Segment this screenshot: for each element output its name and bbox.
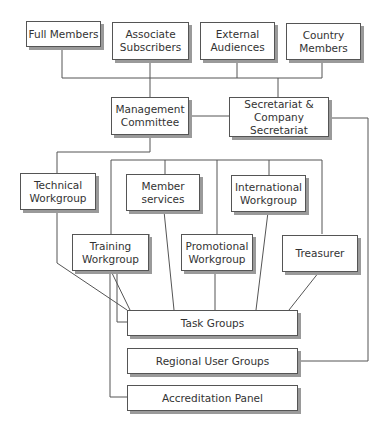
node-accreditation-panel: Accreditation Panel xyxy=(127,385,298,411)
node-secretariat: Secretariat & Company Secretariat xyxy=(229,97,329,137)
node-management-committee: Management Committee xyxy=(111,97,189,135)
node-full-members: Full Members xyxy=(26,21,101,47)
node-external-audiences: External Audiences xyxy=(200,22,275,60)
node-training-workgroup: Training Workgroup xyxy=(72,234,149,271)
node-regional-user-groups: Regional User Groups xyxy=(127,348,298,374)
org-chart: Full Members Associate Subscribers Exter… xyxy=(0,0,388,430)
node-country-members: Country Members xyxy=(286,23,361,60)
node-international-workgroup: International Workgroup xyxy=(231,175,306,212)
node-associate-subscribers: Associate Subscribers xyxy=(112,22,189,60)
node-treasurer: Treasurer xyxy=(282,235,358,272)
node-task-groups: Task Groups xyxy=(127,310,298,336)
node-technical-workgroup: Technical Workgroup xyxy=(20,173,96,210)
node-promotional-workgroup: Promotional Workgroup xyxy=(181,234,253,271)
node-member-services: Member services xyxy=(126,174,200,211)
